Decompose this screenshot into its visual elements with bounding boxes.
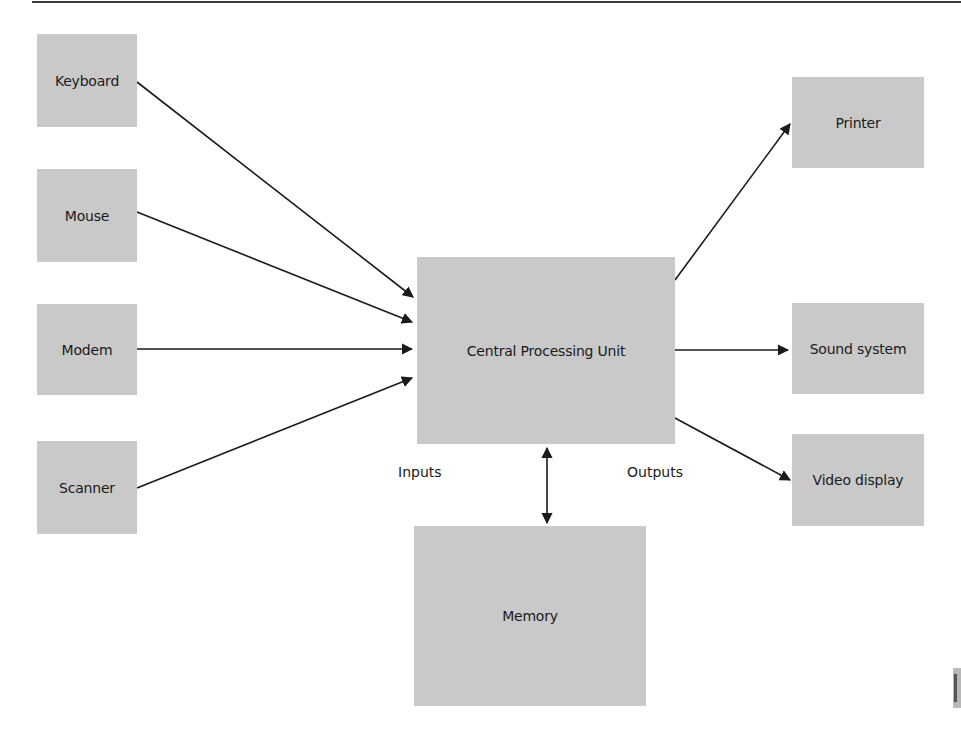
node-cpu: Central Processing Unit xyxy=(417,257,675,444)
node-label: Sound system xyxy=(810,341,907,357)
arrow-mouse-cpu xyxy=(137,212,412,322)
outputs-label: Outputs xyxy=(627,464,683,480)
node-keyboard: Keyboard xyxy=(37,34,137,127)
arrow-scanner-cpu xyxy=(137,378,412,488)
arrow-cpu-video xyxy=(675,418,790,480)
arrow-cpu-printer xyxy=(675,124,790,280)
node-scanner: Scanner xyxy=(37,441,137,534)
arrow-keyboard-cpu xyxy=(137,82,413,297)
node-label: Video display xyxy=(813,472,904,488)
node-label: Central Processing Unit xyxy=(467,343,626,359)
node-label: Keyboard xyxy=(55,73,119,89)
node-printer: Printer xyxy=(792,77,924,168)
node-label: Mouse xyxy=(65,208,109,224)
node-label: Scanner xyxy=(59,480,115,496)
node-sound-system: Sound system xyxy=(792,303,924,394)
inputs-label: Inputs xyxy=(398,464,442,480)
node-modem: Modem xyxy=(37,304,137,395)
node-label: Memory xyxy=(502,608,558,624)
node-video-display: Video display xyxy=(792,434,924,526)
node-mouse: Mouse xyxy=(37,169,137,262)
node-label: Modem xyxy=(62,342,113,358)
page-edge-tab xyxy=(953,668,961,708)
node-memory: Memory xyxy=(414,526,646,706)
node-label: Printer xyxy=(835,115,880,131)
